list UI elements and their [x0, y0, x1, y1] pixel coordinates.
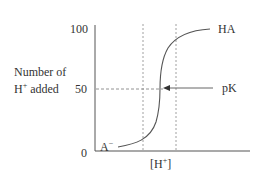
pk-label: pK [222, 82, 237, 94]
y-axis-label: Number of H+ added [14, 66, 66, 96]
y-axis-label-line1: Number of [14, 66, 66, 79]
y-axis-label-line2: H+ added [14, 79, 66, 96]
y-tick-100: 100 [70, 23, 88, 35]
x-axis-label: [H+] [150, 157, 171, 170]
a-minus-label: A− [100, 140, 113, 153]
y-tick-0: 0 [81, 147, 87, 159]
y-tick-50: 50 [75, 83, 87, 95]
ha-label: HA [218, 23, 235, 35]
pk-arrowhead-icon [163, 85, 170, 91]
